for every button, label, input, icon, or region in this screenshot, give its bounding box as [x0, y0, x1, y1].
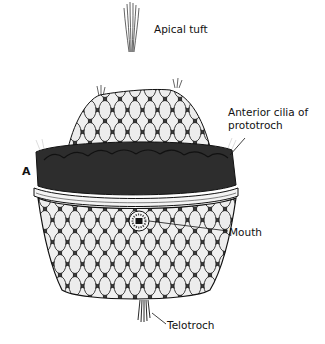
apical-tuft: [124, 2, 139, 52]
label-anterior-cilia-line1: Anterior cilia of: [228, 106, 308, 118]
label-anterior-cilia-line2: prototroch: [228, 119, 283, 131]
panel-letter: A: [22, 165, 31, 178]
telotroch-cilia: [138, 300, 150, 322]
label-apical-tuft: Apical tuft: [154, 23, 208, 35]
label-telotroch: Telotroch: [167, 319, 215, 331]
prototroch-band: [36, 138, 236, 195]
trochophore-illustration: [0, 0, 325, 344]
mouth-structure: [129, 211, 149, 231]
label-mouth: Mouth: [229, 226, 262, 238]
